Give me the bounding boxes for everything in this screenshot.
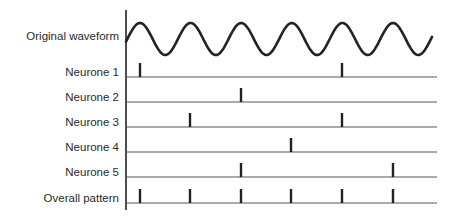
volley-diagram: Original waveform Neurone 1Neurone 2Neur… bbox=[0, 0, 463, 220]
neurone-rows: Neurone 1Neurone 2Neurone 3Neurone 4Neur… bbox=[44, 63, 437, 204]
row-label: Neurone 1 bbox=[65, 66, 119, 78]
row-label: Neurone 4 bbox=[65, 141, 119, 153]
row-neurone-3: Neurone 3 bbox=[65, 113, 437, 128]
row-overall-pattern: Overall pattern bbox=[44, 189, 437, 204]
row-label: Overall pattern bbox=[44, 192, 119, 204]
row-label: Neurone 5 bbox=[65, 166, 119, 178]
sine-wave bbox=[126, 23, 432, 55]
row-neurone-1: Neurone 1 bbox=[65, 63, 437, 78]
row-neurone-4: Neurone 4 bbox=[65, 138, 437, 153]
row-label: Neurone 2 bbox=[65, 91, 119, 103]
row-neurone-2: Neurone 2 bbox=[65, 88, 437, 103]
row-label: Neurone 3 bbox=[65, 116, 119, 128]
row-neurone-5: Neurone 5 bbox=[65, 163, 437, 178]
waveform-label: Original waveform bbox=[26, 30, 119, 42]
original-waveform: Original waveform bbox=[26, 23, 432, 55]
